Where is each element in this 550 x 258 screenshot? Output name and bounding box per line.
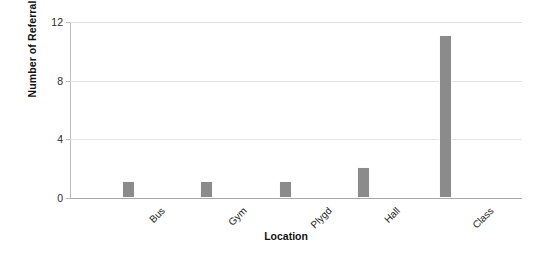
x-tick-label-gym: Gym: [226, 205, 249, 228]
y-tick-label-4: 4: [57, 133, 63, 145]
bar-bus[interactable]: [122, 181, 135, 198]
x-axis-title: Location: [264, 230, 308, 242]
y-tick-mark-8: [66, 81, 70, 82]
x-axis-line: [70, 198, 522, 199]
x-tick-label-hall: Hall: [382, 205, 402, 225]
y-axis-title: Number of Referrals: [26, 0, 38, 136]
x-tick-label-bus: Bus: [147, 205, 167, 225]
y-axis-line: [70, 22, 71, 198]
y-tick-mark-4: [66, 139, 70, 140]
x-axis-title-wrap: Location: [0, 230, 550, 242]
bar-gym[interactable]: [200, 181, 213, 198]
x-tick-label-class: Class: [470, 205, 495, 230]
bar-plygd[interactable]: [279, 181, 292, 198]
gridline-8: [70, 81, 522, 82]
y-tick-mark-0: [66, 198, 70, 199]
y-tick-label-12: 12: [51, 16, 63, 28]
gridline-12: [70, 22, 522, 23]
bar-chart: Number of Referrals 12 8 4 0 Bus Gym Ply…: [0, 0, 550, 258]
x-tick-label-plygd: Plygd: [308, 205, 333, 230]
y-tick-label-0: 0: [57, 192, 63, 204]
y-tick-label-8: 8: [57, 75, 63, 87]
bar-hall[interactable]: [357, 167, 370, 198]
bar-class[interactable]: [439, 35, 452, 198]
plot-area: 12 8 4 0 Bus Gym Plygd Hall Class: [70, 22, 522, 198]
gridline-4: [70, 139, 522, 140]
y-tick-mark-12: [66, 22, 70, 23]
